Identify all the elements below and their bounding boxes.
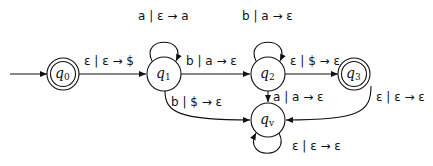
label-q3-qv: ε | ε → ε	[376, 90, 425, 104]
state-qv: qv	[251, 103, 285, 137]
label-q1-q2: b | a → ε	[186, 54, 237, 68]
state-q3: q3	[338, 58, 370, 90]
label-q2-qv: a | a → ε	[273, 90, 324, 104]
label-q2-q3: ε | $ → ε	[290, 54, 340, 68]
state-q2: q2	[251, 57, 285, 91]
pda-diagram: ε | ε → $ a | ε → a b | a → ε b | a → ε …	[0, 0, 433, 166]
state-q0: q0	[47, 58, 79, 90]
label-qv-loop: ε | ε → ε	[292, 139, 341, 153]
state-q1: q1	[147, 57, 181, 91]
label-q2-loop: b | a → ε	[242, 9, 293, 23]
label-q1-qv: b | $ → ε	[171, 95, 222, 109]
label-q0-q1: ε | ε → $	[84, 54, 134, 68]
label-q1-loop: a | ε → a	[138, 9, 189, 23]
